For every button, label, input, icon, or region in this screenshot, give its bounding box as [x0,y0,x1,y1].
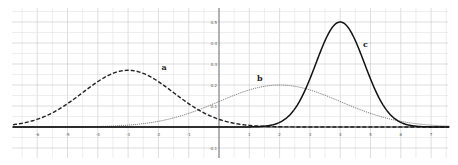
y-tick-label: 0.1 [211,104,218,109]
x-tick-label: 5 [369,132,372,137]
curve-label-a: a [161,62,166,72]
y-tick-label: 0.5 [211,20,218,25]
x-tick-label: -6 [35,132,39,137]
x-tick-label: -5 [66,132,70,137]
axes [12,8,448,158]
grid [12,8,448,158]
chart: -6-5-4-3-2-112345670.50.40.30.20.1-0.1 a… [0,0,458,165]
x-tick-label: 3 [309,132,312,137]
curve-a [13,70,449,127]
x-tick-label: 7 [430,132,433,137]
x-tick-label: 2 [278,132,281,137]
y-tick-label: 0.2 [211,83,218,88]
curve-label-b: b [257,73,263,83]
x-tick-label: 1 [248,132,251,137]
y-tick-label: 0.4 [211,41,218,46]
x-tick-label: 6 [400,132,403,137]
x-tick-label: 4 [339,132,342,137]
x-tick-label: -2 [156,132,160,137]
x-tick-label: -4 [96,132,100,137]
x-tick-label: -1 [187,132,191,137]
y-tick-label: -0.1 [209,146,217,151]
y-tick-label: 0.3 [211,62,218,67]
curve-label-c: c [363,39,368,49]
x-tick-label: -3 [126,132,130,137]
